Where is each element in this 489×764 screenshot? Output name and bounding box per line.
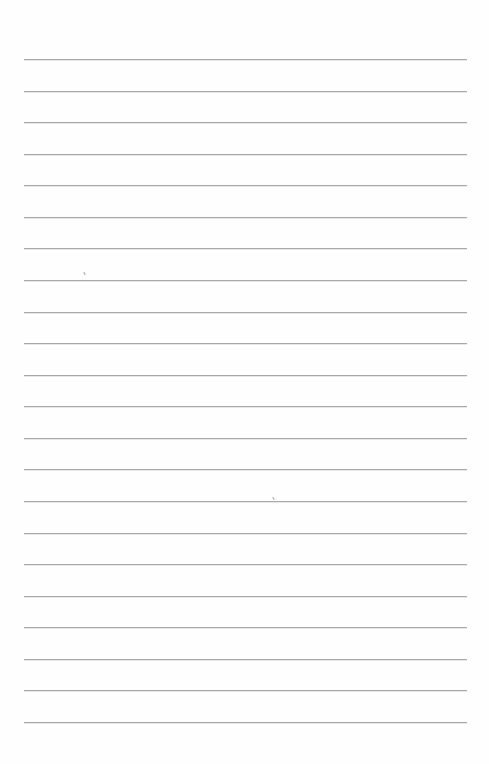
ruled-line	[24, 690, 467, 691]
ruled-line	[24, 280, 467, 281]
ruled-line	[24, 722, 467, 723]
lined-paper-sheet	[0, 0, 489, 764]
paper-speck	[272, 497, 274, 500]
ruled-line	[24, 564, 467, 565]
ruled-line	[24, 343, 467, 344]
ruled-line	[24, 217, 467, 218]
ruled-line	[24, 312, 467, 313]
ruled-line	[24, 438, 467, 439]
ruled-line	[24, 406, 467, 407]
ruled-line	[24, 375, 467, 376]
ruled-line	[24, 91, 467, 92]
ruled-line	[24, 533, 467, 534]
ruled-line	[24, 185, 467, 186]
ruled-line	[24, 596, 467, 597]
ruled-line	[24, 122, 467, 123]
ruled-line	[24, 627, 467, 628]
ruled-line	[24, 59, 467, 60]
ruled-line	[24, 659, 467, 660]
ruled-line	[24, 501, 467, 502]
ruled-line	[24, 248, 467, 249]
ruled-line	[24, 154, 467, 155]
paper-speck	[83, 272, 85, 275]
ruled-line	[24, 469, 467, 470]
